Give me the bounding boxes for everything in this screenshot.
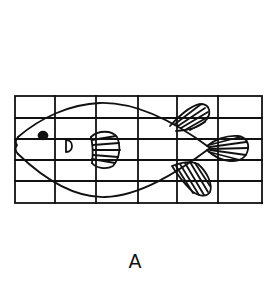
fish-eye (39, 132, 48, 140)
figure-caption: A (0, 250, 270, 272)
grid-corner-dot (261, 202, 263, 204)
fish-gill (66, 140, 72, 152)
fish (16, 103, 249, 197)
